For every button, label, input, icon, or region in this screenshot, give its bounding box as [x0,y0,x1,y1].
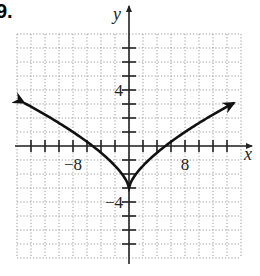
x-tick-label: 8 [181,155,190,174]
x-tick-label: −8 [64,155,82,174]
x-axis-label: x [243,144,252,164]
graph: 9. −884−4 x y [0,0,260,276]
y-tick-label: 4 [115,81,124,100]
y-axis-label: y [111,4,121,24]
axes [15,6,252,264]
problem-label: 9. [0,0,13,22]
y-tick-label: −4 [105,193,124,212]
